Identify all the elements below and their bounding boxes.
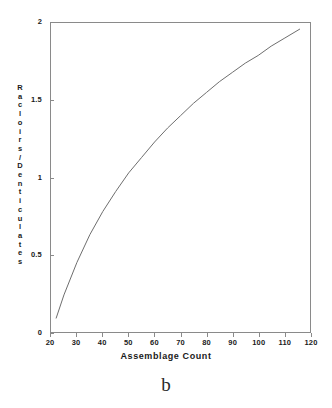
x-axis-title: Assemblage Count [0, 351, 332, 361]
x-axis-tick-label: 110 [279, 338, 292, 347]
x-axis-tick-mark [102, 333, 103, 337]
y-axis-tick-labels: 00.511.52 [0, 22, 46, 333]
plot-area [50, 22, 311, 333]
x-axis-tick-labels: 2030405060708090100110120 [0, 338, 332, 350]
y-axis-tick-label: 1 [38, 174, 42, 182]
x-axis-tick-label: 30 [72, 338, 81, 347]
figure-caption: b [0, 374, 332, 396]
y-axis-tick-mark [50, 100, 54, 101]
y-axis-tick-mark [50, 22, 54, 23]
x-axis-tick-mark [259, 333, 260, 337]
y-axis-tick-label: 2 [38, 18, 42, 26]
x-axis-tick-mark [285, 333, 286, 337]
x-axis-tick-mark [207, 333, 208, 337]
x-axis-tick-mark [76, 333, 77, 337]
data-curve [51, 23, 310, 332]
x-axis-tick-label: 80 [202, 338, 211, 347]
x-axis-tick-label: 90 [228, 338, 237, 347]
x-axis-tick-mark [311, 333, 312, 337]
y-axis-tick-mark [50, 255, 54, 256]
x-axis-tick-label: 40 [98, 338, 107, 347]
y-axis-tick-label: 0.5 [31, 251, 42, 259]
x-axis-tick-label: 120 [304, 338, 317, 347]
y-axis-tick-label: 1.5 [31, 96, 42, 104]
x-axis-tick-label: 100 [252, 338, 265, 347]
x-axis-tick-label: 70 [176, 338, 185, 347]
x-axis-tick-mark [154, 333, 155, 337]
x-axis-tick-label: 50 [124, 338, 133, 347]
x-axis-tick-label: 20 [46, 338, 55, 347]
x-axis-tick-mark [181, 333, 182, 337]
y-axis-tick-mark [50, 178, 54, 179]
x-axis-tick-mark [233, 333, 234, 337]
x-axis-tick-label: 60 [150, 338, 159, 347]
y-axis-tick-mark [50, 333, 54, 334]
x-axis-tick-mark [128, 333, 129, 337]
figure-panel: Racloirs/Denticulates 00.511.52 20304050… [0, 0, 332, 408]
